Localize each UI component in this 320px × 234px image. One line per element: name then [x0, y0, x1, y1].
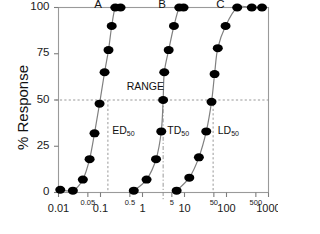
range-annotation-text: RANGE	[127, 80, 164, 92]
data-point-C-5	[210, 70, 220, 78]
data-point-C-1	[184, 174, 194, 182]
data-points	[55, 4, 267, 195]
y-tick-label-0: 0	[24, 185, 50, 197]
curve-line-A	[60, 6, 120, 191]
data-point-A-8	[107, 22, 117, 30]
data-point-A-6	[100, 68, 110, 76]
curve-line-C	[177, 6, 262, 191]
data-point-C-10	[257, 4, 267, 12]
data-point-A-4	[90, 129, 100, 137]
data-point-C-0	[172, 187, 182, 195]
curve-label-A: A	[94, 0, 102, 10]
td50-annotation: TD50	[167, 124, 189, 137]
data-point-B-1	[142, 176, 152, 184]
x-tick-label-1: 1	[123, 202, 163, 214]
data-point-B-3	[156, 127, 166, 135]
data-point-A-2	[78, 176, 88, 184]
ld50-annotation: LD50	[218, 124, 239, 137]
td50-annotation-text: TD	[167, 124, 181, 136]
y-tick-label-75: 75	[24, 46, 50, 58]
data-point-A-5	[95, 100, 105, 108]
data-point-C-2	[194, 153, 204, 161]
x-tick-label-1000: 1000	[249, 202, 279, 214]
data-point-C-4	[207, 98, 217, 106]
data-point-C-3	[201, 127, 211, 135]
data-point-C-7	[221, 22, 231, 30]
ld50-annotation-subscript: 50	[231, 130, 239, 137]
data-point-B-2	[151, 155, 161, 163]
data-point-B-7	[169, 22, 179, 30]
x-tick-label-10: 10	[165, 202, 205, 214]
curve-label-B: B	[158, 0, 166, 10]
x-tick-label-0.1: 0.1	[81, 202, 121, 214]
data-point-C-9	[247, 4, 257, 12]
data-point-A-7	[103, 46, 113, 54]
data-point-C-6	[213, 44, 223, 52]
data-point-A-0	[55, 186, 65, 194]
range-annotation: RANGE	[127, 80, 164, 92]
data-point-C-8	[232, 4, 242, 12]
y-tick-label-100: 100	[24, 0, 50, 12]
curve-label-C: C	[216, 0, 224, 10]
ed50-annotation: ED50	[112, 124, 134, 137]
y-tick-label-25: 25	[24, 139, 50, 151]
data-point-B-9	[179, 4, 189, 12]
data-point-B-0	[129, 187, 139, 195]
data-point-B-5	[159, 68, 169, 76]
ld50-annotation-text: LD	[218, 124, 231, 136]
data-point-A-3	[85, 155, 95, 163]
data-point-B-4	[158, 96, 168, 104]
data-point-A-10	[116, 4, 126, 12]
data-point-B-6	[164, 46, 174, 54]
x-tick-label-0.01: 0.01	[39, 202, 79, 214]
x-tick-label-100: 100	[207, 202, 247, 214]
data-point-A-1	[68, 187, 78, 195]
td50-annotation-subscript: 50	[181, 130, 189, 137]
y-tick-label-50: 50	[24, 93, 50, 105]
ed50-annotation-text: ED	[112, 124, 127, 136]
ed50-annotation-subscript: 50	[127, 130, 135, 137]
